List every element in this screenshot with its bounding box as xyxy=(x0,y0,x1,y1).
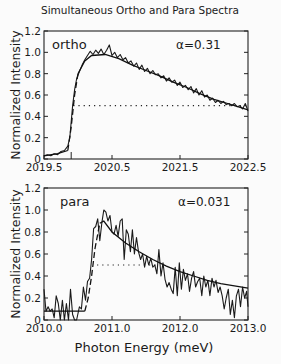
fit-curve xyxy=(85,223,100,311)
ortho-label: ortho xyxy=(52,37,87,52)
x-tick-label: 2013.0 xyxy=(230,322,267,334)
x-tick-label: 2012.0 xyxy=(162,322,199,334)
figure-title: Simultaneous Ortho and Para Spectra xyxy=(41,4,239,16)
fit-curve xyxy=(44,151,68,156)
y-tick-label: 0.8 xyxy=(24,226,41,238)
alpha-annotation-bottom: α=0.031 xyxy=(178,195,230,209)
y-tick-label: 1.2 xyxy=(24,182,41,194)
x-tick-label: 2019.5 xyxy=(26,161,63,173)
y-tick-label: 0.6 xyxy=(24,248,41,260)
y-axis-label-bottom: Normalized Intensity xyxy=(8,189,23,319)
figure: Simultaneous Ortho and Para Spectra Norm… xyxy=(0,0,281,364)
y-tick-label: 1.0 xyxy=(24,204,41,216)
x-axis-label: Photon Energy (meV) xyxy=(75,340,214,355)
fit-curve xyxy=(78,55,248,110)
measured-spectrum xyxy=(44,210,248,320)
y-axis-label-top: Normalized Intensity xyxy=(8,30,23,160)
y-tick-label: 0.4 xyxy=(24,270,41,282)
y-tick-label: 0.4 xyxy=(24,110,41,122)
x-tick-label: 2011.0 xyxy=(94,322,131,334)
y-tick-label: 0.2 xyxy=(24,292,41,304)
y-tick-label: 0.6 xyxy=(24,89,41,101)
y-tick-label: 1.0 xyxy=(24,46,41,58)
ortho-panel: Normalized Intensity ortho α=0.31 00.20.… xyxy=(8,25,266,173)
x-tick-label: 2020.5 xyxy=(94,161,131,173)
x-tick-label: 2010.0 xyxy=(26,322,63,334)
y-tick-label: 0.8 xyxy=(24,68,41,80)
fit-curve xyxy=(68,74,78,151)
x-tick-label: 2022.5 xyxy=(230,161,267,173)
figure-canvas: Simultaneous Ortho and Para Spectra Norm… xyxy=(0,0,281,364)
para-panel: Normalized Intensity para α=0.031 00.20.… xyxy=(8,182,266,334)
y-tick-label: 1.2 xyxy=(24,25,41,37)
alpha-annotation-top: α=0.31 xyxy=(176,38,221,52)
para-label: para xyxy=(60,194,90,209)
y-tick-label: 0.2 xyxy=(24,132,41,144)
x-tick-label: 2021.5 xyxy=(162,161,199,173)
